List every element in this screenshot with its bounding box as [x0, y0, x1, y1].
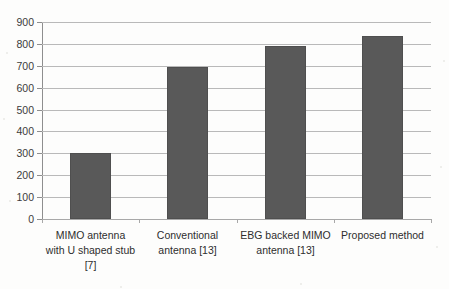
y-tick-label: 100 [0, 192, 34, 202]
y-tick-mark-300 [37, 153, 42, 154]
bar [265, 46, 306, 219]
y-tick-mark-500 [37, 110, 42, 111]
bar [167, 67, 208, 219]
scan-speck [436, 246, 438, 248]
y-tick-label: 700 [0, 61, 34, 71]
x-tick-mark [334, 219, 335, 223]
x-label-line: Proposed method [328, 228, 437, 243]
y-tick-label: 900 [0, 17, 34, 27]
y-tick-mark-600 [37, 88, 42, 89]
scan-speck [443, 60, 445, 62]
x-label-line: Conventional [133, 228, 242, 243]
y-tick-mark-800 [37, 44, 42, 45]
y-tick-mark-400 [37, 131, 42, 132]
x-label-line: antenna [13] [231, 243, 340, 258]
bar [70, 153, 111, 219]
scan-speck [120, 286, 122, 288]
y-tick-mark-200 [37, 175, 42, 176]
x-tick-mark [139, 219, 140, 223]
y-tick-label: 400 [0, 126, 34, 136]
scan-speck [440, 166, 442, 168]
x-label-line: with U shaped stub [36, 243, 145, 258]
y-tick-mark-100 [37, 197, 42, 198]
x-tick-mark [431, 219, 432, 223]
gridline-900 [42, 22, 431, 23]
x-label-line: [7] [36, 258, 145, 273]
y-axis-tick-labels: 9008007006005004003002001000 [0, 0, 34, 289]
y-tick-label: 300 [0, 148, 34, 158]
x-category-label: Conventionalantenna [13] [133, 228, 242, 258]
y-tick-mark-700 [37, 66, 42, 67]
x-label-line: antenna [13] [133, 243, 242, 258]
plot-area [42, 22, 431, 219]
x-tick-mark [42, 219, 43, 223]
y-tick-mark-900 [37, 22, 42, 23]
scan-speck [6, 52, 8, 54]
y-tick-label: 600 [0, 83, 34, 93]
x-category-label: EBG backed MIMOantenna [13] [231, 228, 340, 258]
bar [362, 36, 403, 219]
y-tick-label: 200 [0, 170, 34, 180]
x-category-label: Proposed method [328, 228, 437, 243]
y-tick-mark-0 [37, 219, 42, 220]
y-tick-label: 800 [0, 39, 34, 49]
x-label-line: MIMO antenna [36, 228, 145, 243]
scan-speck [3, 118, 5, 120]
x-label-line: EBG backed MIMO [231, 228, 340, 243]
chart-figure: 9008007006005004003002001000 MIMO antenn… [0, 0, 449, 289]
x-category-label: MIMO antennawith U shaped stub[7] [36, 228, 145, 273]
x-axis-category-labels: MIMO antennawith U shaped stub[7]Convent… [42, 228, 431, 288]
x-tick-mark [237, 219, 238, 223]
y-tick-label: 0 [0, 214, 34, 224]
y-tick-label: 500 [0, 105, 34, 115]
scan-speck [300, 283, 302, 285]
scan-speck [9, 200, 11, 202]
